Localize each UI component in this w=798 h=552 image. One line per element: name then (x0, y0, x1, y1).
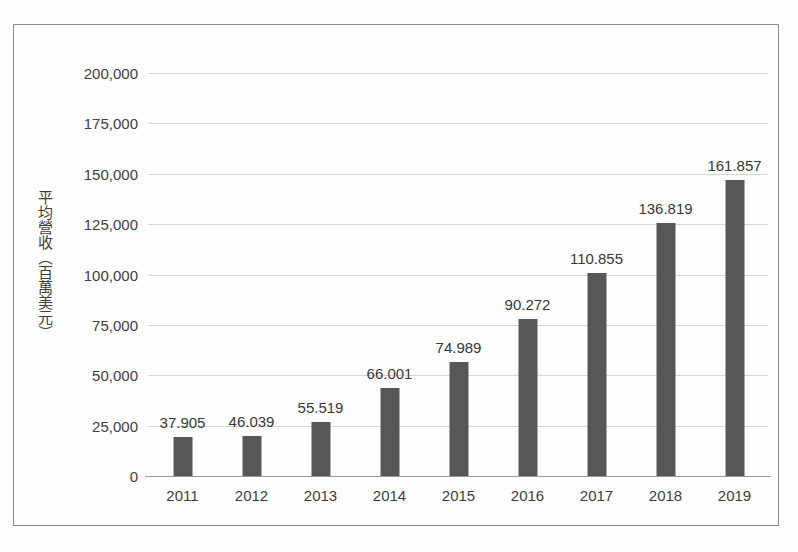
x-axis-tick-label: 2019 (700, 487, 769, 504)
bar-group: 74.989 (424, 73, 493, 476)
bar (587, 273, 606, 477)
y-axis-tick-label: 100,000 (52, 266, 138, 283)
x-axis-line (145, 476, 771, 477)
bar-value-label: 66.001 (367, 365, 413, 382)
y-axis-tick-label: 25,000 (52, 417, 138, 434)
y-axis-tick-label: 125,000 (52, 216, 138, 233)
x-axis-tick-label: 2018 (631, 487, 700, 504)
bar-value-label: 74.989 (436, 339, 482, 356)
x-axis-tick-labels: 201120122013201420152016201720182019 (148, 487, 768, 517)
bar-group: 110.855 (562, 73, 631, 476)
x-axis-tick-label: 2012 (217, 487, 286, 504)
bar (518, 319, 537, 476)
bar-value-label: 90.272 (505, 296, 551, 313)
x-axis-tick-label: 2016 (493, 487, 562, 504)
y-axis-tick-label: 50,000 (52, 367, 138, 384)
bar (380, 388, 399, 476)
bar-group: 55.519 (286, 73, 355, 476)
bar (173, 437, 192, 476)
y-axis-tick-label: 0 (52, 468, 138, 485)
bar (242, 436, 261, 476)
plot-area: 37.90546.03955.51966.00174.98990.272110.… (148, 73, 768, 476)
bar-value-label: 161.857 (707, 157, 761, 174)
bar (656, 223, 675, 476)
bar (449, 362, 468, 476)
bar-value-label: 55.519 (298, 399, 344, 416)
x-axis-tick-label: 2017 (562, 487, 631, 504)
bar-group: 37.905 (148, 73, 217, 476)
bar-value-label: 136.819 (638, 200, 692, 217)
bar-group: 161.857 (700, 73, 769, 476)
bar-group: 90.272 (493, 73, 562, 476)
y-axis-tick-label: 175,000 (52, 115, 138, 132)
chart-figure: 平均營收（百萬美元） 200,000175,000150,000125,0001… (0, 0, 798, 552)
x-axis-tick-label: 2013 (286, 487, 355, 504)
x-axis-tick-label: 2015 (424, 487, 493, 504)
y-axis-tick-label: 150,000 (52, 165, 138, 182)
y-axis-tick-labels: 200,000175,000150,000125,000100,00075,00… (46, 0, 138, 552)
x-axis-tick-label: 2011 (148, 487, 217, 504)
x-axis-tick-label: 2014 (355, 487, 424, 504)
bar-value-label: 46.039 (229, 413, 275, 430)
bar-group: 136.819 (631, 73, 700, 476)
y-axis-tick-label: 200,000 (52, 65, 138, 82)
bar (725, 180, 744, 476)
bar (311, 422, 330, 476)
bar-group: 66.001 (355, 73, 424, 476)
bar-value-label: 37.905 (160, 414, 206, 431)
bar-group: 46.039 (217, 73, 286, 476)
y-axis-tick-label: 75,000 (52, 316, 138, 333)
bar-value-label: 110.855 (570, 250, 623, 267)
